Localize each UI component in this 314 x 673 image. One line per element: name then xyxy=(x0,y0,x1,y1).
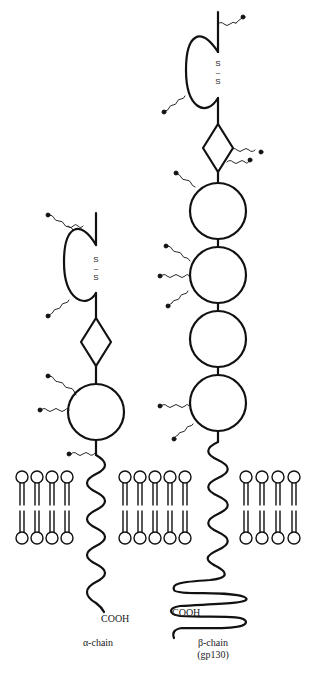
beta-chain-label: β-chain (gp130) xyxy=(188,637,238,661)
alpha-chain-label: α-chain xyxy=(68,637,128,649)
beta-disulfide-s2: S xyxy=(214,78,222,86)
beta-cooh-label: COOH xyxy=(172,607,200,618)
membrane-segment-middle xyxy=(119,471,191,544)
alpha-cooh-label: COOH xyxy=(101,613,129,624)
alpha-disulfide-bond: – xyxy=(92,265,100,273)
membrane-segment-right xyxy=(240,471,300,544)
beta-chain-label-line1: β-chain xyxy=(188,637,238,649)
beta-disulfide-s1: S xyxy=(214,60,222,68)
receptor-diagram xyxy=(0,0,314,673)
alpha-disulfide-s1: S xyxy=(92,256,100,264)
membrane-segment-left xyxy=(16,471,73,544)
beta-chain-label-line2: (gp130) xyxy=(188,649,238,661)
alpha-disulfide-s2: S xyxy=(92,274,100,282)
beta-disulfide-bond: – xyxy=(214,69,222,77)
lipid-bilayer xyxy=(16,471,300,544)
